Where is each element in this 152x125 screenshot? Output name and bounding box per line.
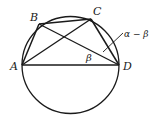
circle-diagram: A B C D β α − β bbox=[0, 0, 152, 125]
label-a: A bbox=[9, 60, 18, 73]
label-d: D bbox=[122, 60, 132, 73]
diagonal-ac bbox=[22, 19, 91, 65]
label-alpha-minus-beta: α − β bbox=[124, 29, 149, 39]
label-c: C bbox=[93, 5, 102, 18]
label-b: B bbox=[29, 11, 38, 24]
chord-bc bbox=[39, 19, 91, 24]
label-beta: β bbox=[85, 52, 92, 63]
